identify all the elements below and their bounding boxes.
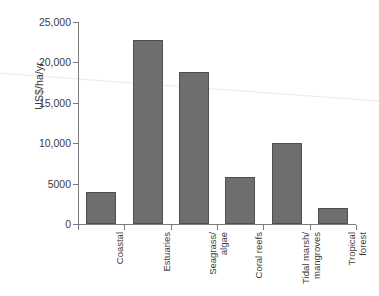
x-label-tidal-marsh-mangroves: Tidal marsh/ mangroves	[300, 232, 326, 296]
bar-coastal	[86, 192, 116, 224]
y-tick-label-0: 0	[65, 218, 71, 231]
y-tick-label-4: 20,000	[39, 56, 71, 69]
bar-coral-reefs	[225, 177, 255, 224]
bar-tidal-marsh-mangroves	[272, 143, 302, 224]
x-label-coastal: Coastal	[114, 232, 140, 296]
y-tick-label-5: 25,000	[39, 16, 71, 29]
x-tick-mark-2	[171, 225, 172, 230]
x-label-tropical-forest: Tropical forest	[346, 232, 372, 296]
y-tick-label-1: 5000	[48, 178, 71, 191]
plot-area	[78, 22, 356, 224]
x-label-seagrass-algae: Seagrass/ algae	[207, 232, 233, 296]
y-axis-ticks: 0 5000 10,000 15,000 20,000 25,000	[0, 0, 78, 296]
x-label-estuaries: Estuaries	[161, 232, 187, 296]
x-tick-mark-6	[356, 225, 357, 230]
y-tick-label-2: 10,000	[39, 137, 71, 150]
bar-seagrass-algae	[179, 72, 209, 224]
y-tick-label-3: 15,000	[39, 97, 71, 110]
x-label-coral-reefs: Coral reefs	[253, 232, 279, 296]
x-tick-mark-4	[263, 225, 264, 230]
bar-tropical-forest	[318, 208, 348, 224]
bar-estuaries	[133, 40, 163, 224]
x-tick-mark-0	[78, 225, 79, 230]
x-tick-mark-3	[217, 225, 218, 230]
x-axis-category-labels: Coastal Estuaries Seagrass/ algae Coral …	[78, 232, 368, 296]
x-tick-mark-1	[124, 225, 125, 230]
x-tick-mark-5	[310, 225, 311, 230]
